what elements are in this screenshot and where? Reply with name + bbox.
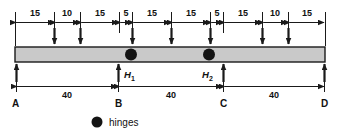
hinge-label-H1: H1 — [124, 70, 135, 82]
hinge-label-H2-sub: 2 — [209, 75, 213, 82]
top-dim-label-2: 10 — [52, 9, 82, 18]
support-label-B: B — [115, 99, 122, 109]
support-label-D: D — [321, 99, 328, 109]
hinge-label-H2-text: H — [202, 69, 209, 80]
legend-hinge-marker — [92, 117, 103, 128]
legend-label: hinges — [109, 118, 138, 128]
top-dim-label-8: 15 — [228, 9, 258, 18]
beam-body — [15, 47, 325, 62]
bottom-dim-label-2: 40 — [156, 91, 186, 100]
top-dim-label-9: 10 — [260, 9, 290, 18]
point-load-arrows — [55, 28, 289, 44]
hinge-label-H1-text: H — [124, 69, 131, 80]
support-label-A: A — [12, 99, 19, 109]
beam-diagram-svg — [0, 0, 339, 138]
hinge-label-H1-sub: 1 — [131, 75, 135, 82]
support-reaction-arrows — [17, 64, 325, 82]
hinge-H2-marker — [203, 49, 215, 61]
bottom-dim-label-3: 40 — [259, 91, 289, 100]
hinge-H1-marker — [125, 49, 137, 61]
top-dim-label-5: 15 — [137, 9, 167, 18]
hinge-label-H2: H2 — [202, 70, 213, 82]
support-label-C: C — [220, 99, 227, 109]
beam-diagram-figure: 15 10 15 5 15 15 5 15 10 15 H1 H2 40 40 … — [0, 0, 339, 138]
bottom-dim-label-1: 40 — [52, 91, 82, 100]
top-dim-label-1: 15 — [20, 9, 50, 18]
top-dim-label-10: 15 — [292, 9, 322, 18]
